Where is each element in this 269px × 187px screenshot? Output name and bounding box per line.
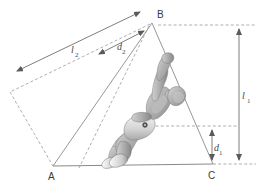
dimension-label-l2-symbol: l [71,44,74,55]
dimension-label-l2-subscript: 2 [75,51,79,59]
dimension-d2: d 2 [99,31,144,56]
athlete-figure [102,53,186,169]
dimension-label-l1-subscript: 1 [247,97,251,105]
vertex-label-b: B [157,9,164,20]
dimension-d1: d 1 [212,130,223,160]
triangle-side-ac [53,164,213,166]
dimension-label-d2-subscript: 2 [122,48,126,56]
figure-root: l 1 d 1 l 2 d 2 A B C [0,0,269,187]
vertex-label-a: A [48,171,55,182]
triangle-side-ab [53,23,152,166]
dimension-l1: l 1 [239,29,251,160]
dimension-label-d1-subscript: 1 [219,149,223,157]
vertex-label-c: C [208,170,215,181]
dimension-label-l1-symbol: l [242,90,245,101]
figure-diagram: l 1 d 1 l 2 d 2 A B C [0,0,269,187]
